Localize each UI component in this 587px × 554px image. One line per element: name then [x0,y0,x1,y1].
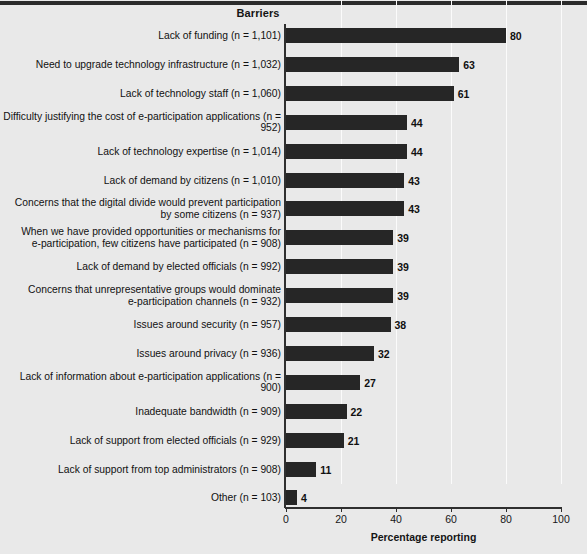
bar [286,404,347,419]
category-label: Inadequate bandwidth (n = 909) [135,406,281,418]
bar-row: Issues around security (n = 957)38 [0,317,587,333]
bar-row: Lack of technology staff (n = 1,060)61 [0,86,587,102]
category-label: Lack of information about e-participatio… [0,371,281,394]
bar-value-label: 39 [397,261,409,273]
x-tick-0 [286,507,287,512]
bar-value-label: 32 [378,348,390,360]
bar [286,259,393,274]
bar-value-label: 61 [458,88,470,100]
category-label: Need to upgrade technology infrastructur… [36,59,281,71]
category-label: Lack of demand by citizens (n = 1,010) [104,175,281,187]
bar-value-label: 22 [351,406,363,418]
x-tick-label-0: 0 [266,513,306,525]
bar-row: Inadequate bandwidth (n = 909)22 [0,404,587,420]
bar [286,490,297,505]
category-label: Lack of funding (n = 1,101) [158,30,281,42]
bar [286,288,393,303]
bar-value-label: 11 [320,464,331,476]
bar-row: When we have provided opportunities or m… [0,230,587,246]
bar-value-label: 43 [408,175,420,187]
x-tick-label-80: 80 [486,513,526,525]
bar-row: Concerns that unrepresentative groups wo… [0,288,587,304]
bar-value-label: 39 [397,290,409,302]
bar [286,173,404,188]
bar-row: Lack of technology expertise (n = 1,014)… [0,144,587,160]
x-tick-80 [506,507,507,512]
category-label: Lack of technology expertise (n = 1,014) [98,146,281,158]
bar-value-label: 39 [397,232,409,244]
category-label: Lack of demand by elected officials (n =… [77,261,281,273]
bar-row: Other (n = 103)4 [0,490,587,506]
category-label: Other (n = 103) [211,493,281,505]
category-label: Lack of support from elected officials (… [70,435,281,447]
bar [286,230,393,245]
bar [286,375,360,390]
bar-row: Lack of demand by citizens (n = 1,010)43 [0,173,587,189]
x-tick-20 [341,507,342,512]
bar-row: Lack of information about e-participatio… [0,375,587,391]
bar-value-label: 44 [411,117,423,129]
x-tick-label-60: 60 [431,513,471,525]
bar-value-label: 38 [395,319,407,331]
category-label: Issues around privacy (n = 936) [136,348,281,360]
bar [286,317,391,332]
category-label: Difficulty justifying the cost of e-part… [0,111,281,134]
x-tick-100 [561,507,562,512]
bar [286,433,344,448]
bar-row: Lack of demand by elected officials (n =… [0,259,587,275]
x-tick-label-20: 20 [321,513,361,525]
category-label: Concerns that the digital divide would p… [15,198,281,221]
bar-row: Lack of funding (n = 1,101)80 [0,28,587,44]
x-tick-label-40: 40 [376,513,416,525]
category-label: Lack of technology staff (n = 1,060) [120,88,281,100]
category-label: Concerns that unrepresentative groups wo… [28,285,281,308]
bar [286,144,407,159]
bar-value-label: 63 [463,59,475,71]
chart-title: Barriers [0,7,516,19]
bar-value-label: 44 [411,146,423,158]
bar-row: Lack of support from top administrators … [0,462,587,478]
bar-value-label: 4 [301,492,307,504]
bar-value-label: 21 [348,435,360,447]
x-axis-label: Percentage reporting [285,531,562,543]
bar [286,462,316,477]
x-tick-60 [451,507,452,512]
x-tick-40 [396,507,397,512]
bar [286,201,404,216]
bar [286,86,454,101]
category-label: Lack of support from top administrators … [58,464,281,476]
bar-value-label: 43 [408,203,420,215]
bar-row: Need to upgrade technology infrastructur… [0,57,587,73]
bar [286,346,374,361]
bar-row: Concerns that the digital divide would p… [0,201,587,217]
bar-row: Lack of support from elected officials (… [0,433,587,449]
top-rule-divider [0,1,587,5]
category-label: Issues around security (n = 957) [134,319,281,331]
x-axis-line [285,507,562,509]
chart-figure: Barriers 020406080100 Lack of funding (n… [0,0,587,554]
bar-value-label: 27 [364,377,376,389]
bar [286,115,407,130]
bar-row: Difficulty justifying the cost of e-part… [0,115,587,131]
x-tick-label-100: 100 [541,513,581,525]
bar-row: Issues around privacy (n = 936)32 [0,346,587,362]
category-label: When we have provided opportunities or m… [21,227,281,250]
bar [286,57,459,72]
bar-value-label: 80 [510,30,522,42]
bar [286,28,506,43]
